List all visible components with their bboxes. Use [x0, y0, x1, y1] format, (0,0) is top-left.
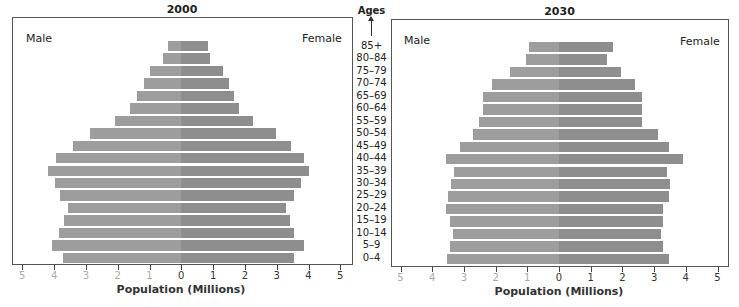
age-label: 25–29	[352, 189, 391, 201]
bar-female	[559, 92, 642, 102]
bar-male	[454, 167, 559, 177]
x-tick-label: 3	[269, 270, 285, 281]
arrow-shaft	[371, 18, 372, 36]
bar-female	[559, 117, 642, 127]
x-tick-label: 5	[710, 272, 726, 283]
bar-male	[526, 54, 559, 64]
male-label-2030: Male	[404, 34, 430, 47]
bar-male	[447, 254, 559, 264]
ages-title: Ages	[352, 5, 391, 16]
bar-male	[137, 91, 182, 101]
bar-female	[181, 240, 303, 250]
bar-female	[181, 141, 290, 151]
bar-female	[181, 190, 294, 200]
x-tick-label: 1	[519, 272, 535, 283]
bar-male	[56, 153, 181, 163]
x-tick-label: 2	[110, 270, 126, 281]
bar-female	[181, 128, 276, 138]
bar-male	[453, 229, 559, 239]
bar-male	[144, 78, 181, 88]
bar-female	[559, 129, 658, 139]
bar-male	[483, 92, 559, 102]
x-tick-label: 2	[237, 270, 253, 281]
bar-female	[559, 204, 663, 214]
age-label: 85+	[352, 40, 391, 52]
bar-male	[59, 228, 181, 238]
age-label: 70–74	[352, 77, 391, 89]
bar-female	[559, 79, 635, 89]
age-label: 80–84	[352, 52, 391, 64]
bar-female	[181, 78, 229, 88]
bar-male	[479, 117, 559, 127]
bar-male	[60, 190, 181, 200]
x-tick-label: 4	[424, 272, 440, 283]
bar-female	[559, 216, 663, 226]
bar-female	[559, 67, 621, 77]
bar-female	[559, 229, 661, 239]
bar-male	[55, 178, 182, 188]
x-tick-label: 2	[488, 272, 504, 283]
bar-male	[52, 240, 181, 250]
bar-female	[559, 54, 607, 64]
bar-female	[181, 103, 238, 113]
bar-female	[181, 53, 210, 63]
bar-female	[559, 191, 669, 201]
age-label: 40–44	[352, 152, 391, 164]
bar-male	[73, 141, 181, 151]
x-tick-label: 1	[142, 270, 158, 281]
x-axis-label-2030: Population (Millions)	[478, 285, 640, 298]
x-tick-label: 4	[678, 272, 694, 283]
age-axis: Ages 85+80–8475–7970–7465–6960–6455–5950…	[352, 0, 391, 307]
x-tick-label: 5	[14, 270, 30, 281]
bar-female	[559, 104, 642, 114]
bar-female	[181, 166, 309, 176]
age-label: 20–24	[352, 202, 391, 214]
bar-female	[559, 241, 663, 251]
x-tick-label: 0	[173, 270, 189, 281]
age-label: 0–4	[352, 252, 391, 264]
age-label: 55–59	[352, 115, 391, 127]
age-label: 30–34	[352, 177, 391, 189]
female-label-2030: Female	[680, 35, 720, 48]
bar-male	[460, 142, 559, 152]
bar-female	[559, 42, 613, 52]
bar-male	[150, 66, 182, 76]
x-tick-label: 3	[646, 272, 662, 283]
bar-female	[181, 253, 294, 263]
bar-male	[130, 103, 182, 113]
x-tick-label: 1	[205, 270, 221, 281]
age-label: 75–79	[352, 65, 391, 77]
bar-male	[90, 128, 181, 138]
female-label-2000: Female	[302, 32, 342, 45]
bar-female	[559, 142, 669, 152]
x-tick-label: 1	[583, 272, 599, 283]
x-tick-label: 4	[46, 270, 62, 281]
age-label: 45–49	[352, 140, 391, 152]
bar-female	[181, 203, 285, 213]
bar-female	[181, 215, 289, 225]
bar-male	[115, 116, 181, 126]
age-label: 60–64	[352, 102, 391, 114]
x-tick-label: 4	[301, 270, 317, 281]
bar-male	[168, 41, 181, 51]
bar-male	[492, 79, 559, 89]
age-label: 35–39	[352, 165, 391, 177]
bar-male	[450, 216, 559, 226]
bar-female	[181, 41, 208, 51]
bar-male	[64, 215, 182, 225]
bar-male	[510, 67, 559, 77]
x-tick-label: 3	[78, 270, 94, 281]
male-label-2000: Male	[26, 32, 52, 45]
chart-title-2000: 2000	[12, 3, 352, 16]
chart-title-2030: 2030	[391, 5, 728, 18]
bar-female	[181, 228, 294, 238]
bar-female	[559, 167, 667, 177]
bar-male	[450, 241, 559, 251]
bar-male	[448, 191, 559, 201]
age-label: 10–14	[352, 227, 391, 239]
bar-female	[181, 116, 252, 126]
bar-male	[446, 154, 559, 164]
bar-male	[163, 53, 182, 63]
x-axis-label-2000: Population (Millions)	[100, 283, 262, 296]
bar-male	[451, 179, 559, 189]
